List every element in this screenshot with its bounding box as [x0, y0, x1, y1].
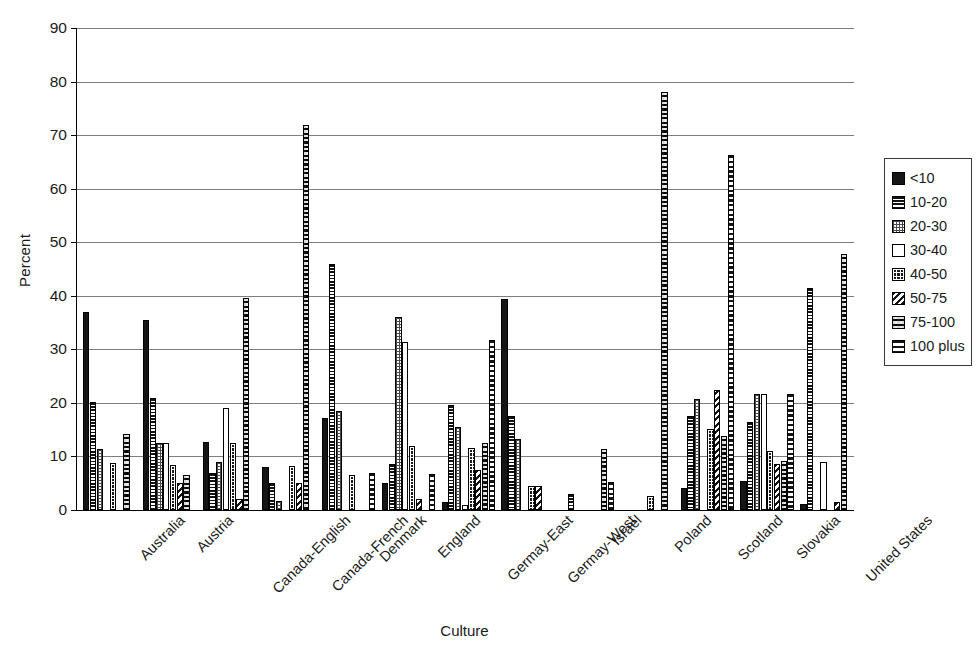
- bar-group: [442, 28, 496, 510]
- bar-group: [681, 28, 735, 510]
- bar: [269, 483, 275, 510]
- bar: [687, 416, 693, 510]
- legend-swatch-icon: [892, 172, 905, 185]
- bar: [728, 155, 734, 510]
- bar: [754, 394, 760, 510]
- x-axis-tick-labels: AustraliaAustriaCanada-EnglishCanada-Fre…: [76, 512, 853, 622]
- bar: [203, 442, 209, 510]
- bar-group: [621, 28, 675, 510]
- bar: [349, 475, 355, 510]
- bar: [123, 434, 129, 510]
- legend: <1010-2020-3030-4040-5050-7575-100100 pl…: [884, 158, 972, 366]
- bar: [475, 470, 481, 510]
- legend-label: 75-100: [910, 315, 955, 330]
- bar: [183, 475, 189, 510]
- bar: [468, 448, 474, 510]
- x-axis-tick-label: United States: [863, 512, 936, 585]
- bar: [442, 502, 448, 510]
- bar: [508, 416, 514, 510]
- bar: [767, 451, 773, 510]
- x-axis-tick-label: Slovakia: [793, 512, 843, 562]
- legend-label: 30-40: [910, 243, 947, 258]
- bar: [336, 411, 342, 510]
- y-axis-tick-label: 40: [50, 287, 67, 305]
- bar: [276, 501, 282, 510]
- bar-group: [262, 28, 316, 510]
- legend-item: 20-30: [892, 214, 965, 238]
- y-axis-tick-label: 0: [58, 501, 67, 519]
- bar: [661, 92, 667, 510]
- bar: [781, 461, 787, 510]
- bar-group: [800, 28, 854, 510]
- x-axis-tick-label: Israel: [608, 512, 644, 548]
- bar: [143, 320, 149, 510]
- bar: [83, 312, 89, 510]
- y-axis-tick-label: 70: [50, 126, 67, 144]
- y-axis-tick-label: 30: [50, 340, 67, 358]
- bar: [747, 422, 753, 510]
- bar: [150, 398, 156, 510]
- y-axis-tick-label: 20: [50, 394, 67, 412]
- bar: [535, 486, 541, 510]
- legend-item: 40-50: [892, 262, 965, 286]
- bar: [820, 462, 826, 510]
- bar: [296, 483, 302, 510]
- bar: [774, 464, 780, 510]
- bar: [694, 399, 700, 510]
- legend-label: 100 plus: [910, 339, 965, 354]
- bar: [163, 443, 169, 510]
- bar: [721, 436, 727, 510]
- bar: [156, 443, 162, 510]
- bar: [429, 474, 435, 510]
- bar: [322, 418, 328, 510]
- bar: [289, 466, 295, 510]
- bar: [740, 481, 746, 510]
- x-axis-title: Culture: [76, 622, 853, 639]
- legend-item: 75-100: [892, 310, 965, 334]
- legend-item: 10-20: [892, 190, 965, 214]
- y-axis-tick-label: 60: [50, 180, 67, 198]
- bar-group: [740, 28, 794, 510]
- x-axis-tick-label: Austria: [193, 512, 236, 555]
- x-axis-tick-label: Poland: [671, 512, 714, 555]
- bar: [601, 449, 607, 510]
- legend-label: 40-50: [910, 267, 947, 282]
- bar: [800, 504, 806, 510]
- bar: [97, 449, 103, 510]
- legend-label: 10-20: [910, 195, 947, 210]
- bar: [462, 505, 468, 510]
- y-axis-tick-label: 90: [50, 19, 67, 37]
- legend-swatch-icon: [892, 340, 905, 353]
- bar-group: [143, 28, 197, 510]
- bar-chart: Percent 0102030405060708090 AustraliaAus…: [0, 0, 979, 655]
- bar: [177, 483, 183, 510]
- bar: [761, 394, 767, 510]
- bar-groups: [77, 28, 854, 510]
- bar: [647, 496, 653, 510]
- legend-label: 20-30: [910, 219, 947, 234]
- bar-group: [203, 28, 257, 510]
- bar-group: [382, 28, 436, 510]
- bar: [834, 502, 840, 510]
- bar-group: [561, 28, 615, 510]
- bar: [223, 408, 229, 510]
- bar: [90, 402, 96, 510]
- bar: [230, 443, 236, 510]
- bar: [110, 463, 116, 510]
- legend-item: 100 plus: [892, 334, 965, 358]
- bar: [707, 429, 713, 510]
- bar: [568, 494, 574, 510]
- bar: [714, 390, 720, 510]
- bar-group: [322, 28, 376, 510]
- bar: [807, 288, 813, 510]
- bar: [455, 427, 461, 510]
- legend-label: 50-75: [910, 291, 947, 306]
- legend-swatch-icon: [892, 196, 905, 209]
- y-axis-tick-label: 80: [50, 73, 67, 91]
- bar: [243, 298, 249, 510]
- bar: [303, 125, 309, 510]
- legend-swatch-icon: [892, 292, 905, 305]
- bar: [382, 483, 388, 510]
- legend-item: 50-75: [892, 286, 965, 310]
- legend-swatch-icon: [892, 220, 905, 233]
